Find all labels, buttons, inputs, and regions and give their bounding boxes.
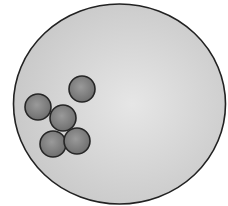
particle-bottom-left [40,131,66,157]
particle-bottom-right [64,128,90,154]
particle-left [25,94,51,120]
particle-top [69,76,95,102]
particles-in-container-diagram [0,0,228,206]
particle-middle [50,105,76,131]
